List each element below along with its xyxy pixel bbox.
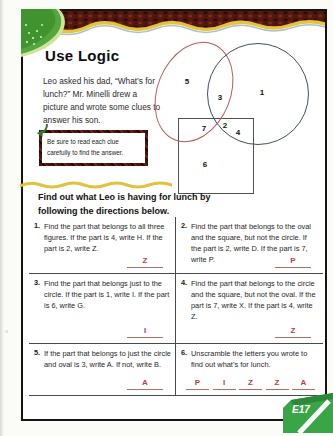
unscramble-blank-2[interactable]: I	[213, 371, 236, 390]
unscramble-blanks: P I Z Z A	[186, 371, 315, 390]
unscramble-blank-1[interactable]: P	[186, 371, 209, 390]
region-label-circle-only: 1	[260, 88, 264, 97]
question-1-number: 1.	[34, 221, 44, 254]
question-3-text: Find the part that belongs just to the c…	[44, 278, 171, 311]
question-1: 1. Find the part that belongs to all thr…	[29, 217, 176, 274]
region-label-oval-square: 7	[202, 124, 206, 133]
intro-paragraph: Leo asked his dad, “What’s for lunch?” M…	[43, 75, 164, 126]
question-5: 5. If the part that belongs to just the …	[29, 344, 176, 396]
tip-text: Be sure to read each clue carefully to f…	[47, 137, 141, 158]
question-4: 4. Find the part that belongs to the cir…	[176, 274, 323, 344]
question-2: 2. Find the part that belongs to the ova…	[176, 217, 323, 274]
region-label-oval-circle: 3	[218, 93, 222, 102]
workbook-page: Use Logic Leo asked his dad, “What’s for…	[21, 9, 327, 421]
unscramble-blank-5[interactable]: A	[292, 371, 315, 390]
question-2-number: 2.	[181, 221, 191, 265]
copyright-vertical-mark: ©	[4, 300, 9, 334]
page-number: E17	[292, 404, 310, 415]
circle-shape	[207, 43, 309, 145]
answer-letter-3: I	[144, 326, 146, 336]
instructions-heading: Find out what Leo is having for lunch by…	[38, 191, 244, 219]
question-6-number: 6.	[181, 348, 191, 370]
page-title: Use Logic	[45, 47, 119, 64]
question-5-number: 5.	[34, 348, 44, 370]
unscramble-letter-4: Z	[275, 378, 280, 388]
venn-diagram: 1 2 3 4 5 6 7	[153, 36, 325, 206]
answer-letter-4: Z	[291, 326, 296, 336]
scan-edge-shadow	[0, 0, 4, 436]
unscramble-letter-5: A	[301, 378, 307, 388]
question-3: 3. Find the part that belongs just to th…	[29, 274, 176, 344]
unscramble-blank-4[interactable]: Z	[266, 371, 289, 390]
answer-letter-2: P	[290, 256, 295, 266]
page-number-tab: E17	[283, 393, 333, 433]
answer-blank-4[interactable]: Z	[275, 319, 311, 338]
question-4-text: Find the part that belongs to the circle…	[191, 278, 319, 322]
answer-blank-5[interactable]: A	[127, 371, 163, 390]
question-6: 6. Unscramble the letters you wrote to f…	[176, 344, 323, 396]
region-label-square-only: 6	[203, 160, 207, 169]
unscramble-letter-1: P	[195, 378, 200, 388]
question-3-number: 3.	[34, 278, 44, 311]
unscramble-letter-3: Z	[248, 378, 253, 388]
question-6-text: Unscramble the letters you wrote to find…	[191, 348, 319, 370]
answer-blank-1[interactable]: Z	[127, 249, 163, 268]
answer-letter-5: A	[142, 378, 148, 388]
question-5-text: If the part that belongs to just the cir…	[44, 348, 171, 370]
question-4-number: 4.	[181, 278, 191, 322]
answer-blank-2[interactable]: P	[275, 249, 311, 268]
wavy-divider	[20, 179, 172, 189]
unscramble-blank-3[interactable]: Z	[239, 371, 262, 390]
region-label-circle-square: 4	[236, 128, 240, 137]
region-label-all-three: 2	[223, 121, 227, 130]
green-arrow-icon	[36, 124, 49, 137]
unscramble-letter-2: I	[223, 378, 225, 388]
tip-box: Be sure to read each clue carefully to f…	[39, 130, 148, 166]
questions-grid: 1. Find the part that belongs to all thr…	[29, 217, 323, 396]
answer-blank-3[interactable]: I	[127, 319, 163, 338]
region-label-oval-only: 5	[185, 77, 189, 86]
answer-letter-1: Z	[143, 256, 148, 266]
